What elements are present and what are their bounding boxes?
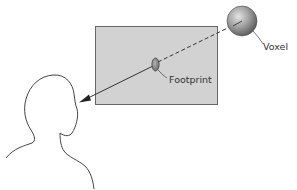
footprint-ellipse [152,58,159,71]
voxel-label: Voxel [263,41,288,52]
voxel-leader [253,31,263,44]
arrowhead-icon [79,95,91,103]
viewer-head [6,75,94,189]
footprint-label: Footprint [169,74,212,85]
voxel-splatting-diagram: Footprint Voxel [0,0,297,190]
